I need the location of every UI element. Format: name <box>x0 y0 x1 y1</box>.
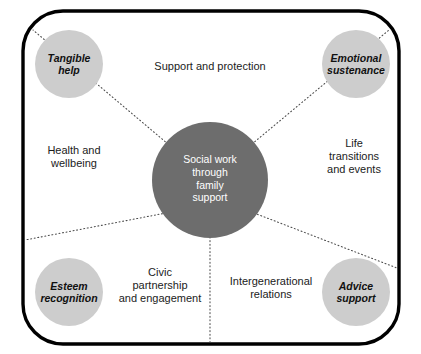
node-advice-support[interactable] <box>322 258 390 326</box>
connector-to-advice-support <box>254 213 397 268</box>
node-esteem-recognition[interactable] <box>35 258 103 326</box>
node-center[interactable] <box>152 122 268 238</box>
diagram-canvas <box>0 0 421 354</box>
node-emotional-sustenance[interactable] <box>322 30 390 98</box>
node-tangible-help[interactable] <box>35 30 103 98</box>
family-support-diagram: Tangible help Emotional sustenance Estee… <box>0 0 421 354</box>
connector-to-esteem-recognition <box>25 213 166 240</box>
